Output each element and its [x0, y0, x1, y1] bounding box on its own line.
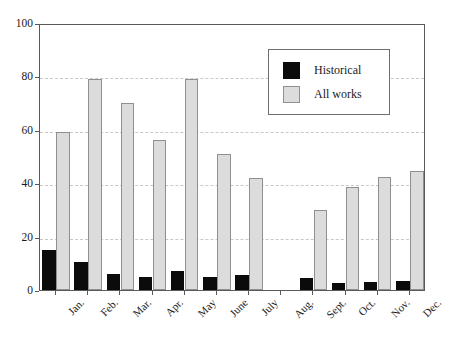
- bar-historical: [332, 283, 346, 290]
- x-tick-label: Jan.: [66, 297, 86, 317]
- x-tick-mark: [216, 291, 217, 295]
- legend-item-historical: Historical: [283, 58, 389, 82]
- x-tick-mark: [409, 291, 410, 295]
- x-tick-label: Nov.: [389, 297, 412, 320]
- y-tick-label: 0: [0, 285, 33, 297]
- x-tick-mark: [119, 291, 120, 295]
- y-tick-label: 40: [0, 178, 33, 190]
- bar-historical: [107, 274, 121, 290]
- y-tick-label: 100: [0, 18, 33, 30]
- bar-group: [104, 25, 136, 290]
- bar-historical: [42, 250, 56, 290]
- bar-all-works: [217, 154, 231, 290]
- legend-item-all-works: All works: [283, 82, 389, 106]
- bar-historical: [171, 271, 185, 290]
- x-tick-mark: [184, 291, 185, 295]
- y-tick-mark: [35, 291, 39, 292]
- legend-label-historical: Historical: [314, 64, 361, 76]
- x-tick-mark: [377, 291, 378, 295]
- bar-historical: [139, 277, 153, 290]
- bar-historical: [364, 282, 378, 290]
- bar-all-works: [314, 210, 328, 290]
- bar-all-works: [410, 171, 424, 290]
- bar-historical: [300, 278, 314, 290]
- x-tick-label: June: [228, 297, 250, 319]
- bar-historical: [74, 262, 88, 290]
- bar-historical: [203, 277, 217, 290]
- x-tick-mark: [345, 291, 346, 295]
- bar-group: [72, 25, 104, 290]
- bar-group: [169, 25, 201, 290]
- bar-all-works: [346, 187, 360, 290]
- bar-all-works: [249, 178, 263, 290]
- bar-group: [394, 25, 426, 290]
- bar-all-works: [153, 140, 167, 290]
- x-tick-label: July: [259, 297, 280, 318]
- bar-all-works: [185, 79, 199, 290]
- legend-swatch-all-works-icon: [283, 86, 300, 103]
- bar-historical: [396, 281, 410, 290]
- x-tick-label: Feb.: [99, 297, 120, 318]
- bar-all-works: [121, 103, 135, 290]
- x-tick-mark: [152, 291, 153, 295]
- bar-group: [201, 25, 233, 290]
- x-tick-label: Oct.: [356, 297, 377, 318]
- legend: Historical All works: [268, 49, 390, 115]
- bar-chart: 020406080100 Jan.Feb.Mar.Apr.MayJuneJuly…: [0, 0, 449, 338]
- bar-group: [40, 25, 72, 290]
- bar-all-works: [88, 79, 102, 290]
- x-tick-label: May: [196, 297, 218, 319]
- bar-all-works: [56, 132, 70, 290]
- bar-all-works: [378, 177, 392, 290]
- y-tick-label: 80: [0, 72, 33, 84]
- x-tick-mark: [87, 291, 88, 295]
- legend-swatch-historical-icon: [283, 62, 300, 79]
- y-tick-label: 60: [0, 125, 33, 137]
- bar-group: [137, 25, 169, 290]
- bar-group: [233, 25, 265, 290]
- x-tick-label: Sept.: [325, 297, 349, 321]
- y-tick-label: 20: [0, 232, 33, 244]
- x-tick-label: Aug.: [293, 297, 316, 320]
- x-tick-mark: [280, 291, 281, 295]
- legend-label-all-works: All works: [314, 88, 362, 100]
- x-tick-label: Mar.: [131, 297, 153, 319]
- x-tick-mark: [55, 291, 56, 295]
- x-tick-label: Apr.: [163, 297, 184, 318]
- x-tick-label: Dec.: [421, 297, 443, 319]
- bar-historical: [235, 275, 249, 290]
- x-tick-mark: [248, 291, 249, 295]
- x-tick-mark: [312, 291, 313, 295]
